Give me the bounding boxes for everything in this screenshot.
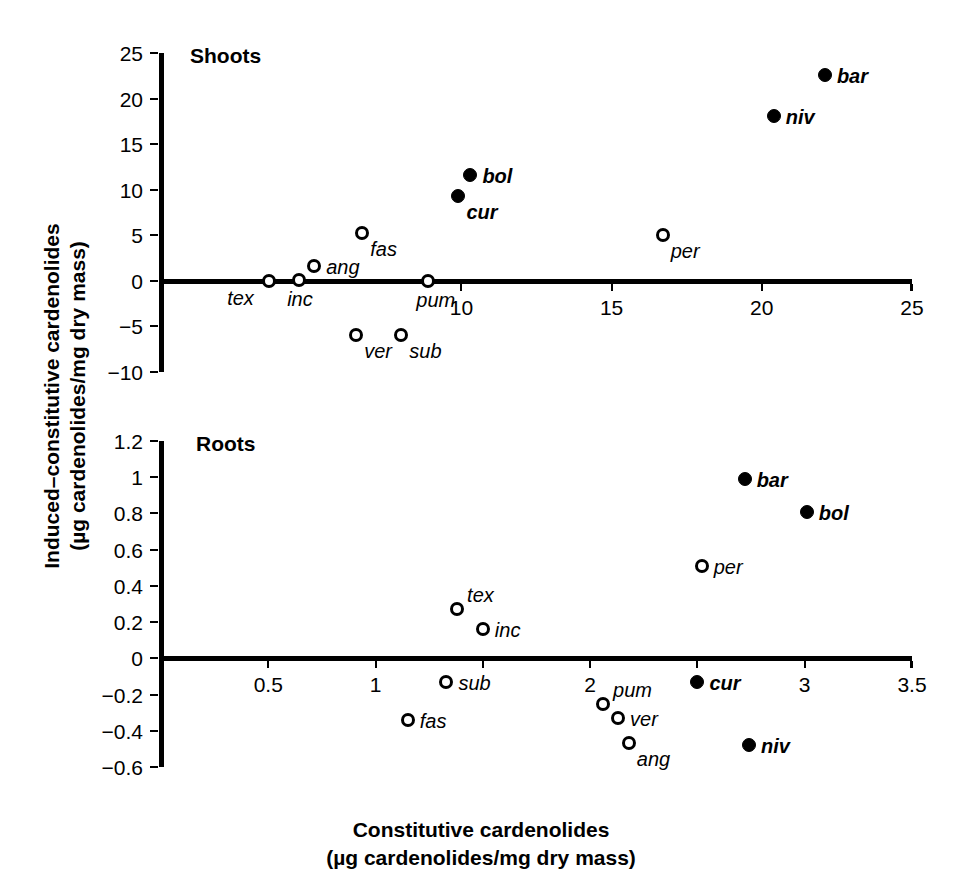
y-tick-label-roots-2: −0.2 bbox=[31, 684, 143, 705]
data-point-roots-ang[interactable] bbox=[622, 736, 636, 750]
y-tick-roots-1 bbox=[150, 730, 158, 732]
x-tick-label-roots-6: 3.5 bbox=[897, 674, 926, 695]
y-axis-line-roots bbox=[159, 441, 164, 767]
data-point-roots-fas[interactable] bbox=[401, 713, 415, 727]
x-axis-endcap-roots bbox=[910, 661, 912, 668]
data-point-label-roots-inc: inc bbox=[495, 620, 521, 640]
x-tick-roots-3 bbox=[589, 661, 591, 668]
data-point-label-roots-bar: bar bbox=[757, 470, 788, 490]
x-tick-roots-4 bbox=[696, 661, 698, 668]
data-point-label-roots-cur: cur bbox=[709, 673, 740, 693]
y-tick-label-roots-8: 1 bbox=[31, 467, 143, 488]
data-point-label-roots-bol: bol bbox=[819, 503, 849, 523]
x-tick-roots-1 bbox=[375, 661, 377, 668]
data-point-roots-sub[interactable] bbox=[439, 675, 453, 689]
y-tick-label-roots-7: 0.8 bbox=[31, 503, 143, 524]
y-tick-roots-4 bbox=[150, 621, 158, 623]
x-axis-title: Constitutive cardenolides (µg cardenolid… bbox=[0, 816, 962, 872]
data-point-label-roots-niv: niv bbox=[761, 736, 790, 756]
y-tick-roots-5 bbox=[150, 585, 158, 587]
y-tick-roots-2 bbox=[150, 694, 158, 696]
x-axis-title-line2: (µg cardenolides/mg dry mass) bbox=[0, 844, 962, 872]
y-tick-roots-8 bbox=[150, 476, 158, 478]
data-point-label-roots-per: per bbox=[714, 557, 743, 577]
y-tick-roots-7 bbox=[150, 512, 158, 514]
y-tick-label-roots-5: 0.4 bbox=[31, 575, 143, 596]
y-tick-label-roots-4: 0.2 bbox=[31, 612, 143, 633]
data-point-roots-cur[interactable] bbox=[690, 675, 704, 689]
x-axis-line-roots bbox=[161, 656, 912, 661]
y-tick-roots-0 bbox=[150, 766, 158, 768]
y-tick-label-roots-0: −0.6 bbox=[31, 757, 143, 778]
x-axis-title-line1: Constitutive cardenolides bbox=[0, 816, 962, 844]
data-point-label-roots-ver: ver bbox=[630, 709, 658, 729]
x-tick-label-roots-5: 3 bbox=[799, 674, 811, 695]
data-point-label-roots-tex: tex bbox=[467, 585, 494, 605]
data-point-roots-bar[interactable] bbox=[738, 472, 752, 486]
data-point-label-roots-fas: fas bbox=[420, 711, 447, 731]
x-tick-roots-0 bbox=[267, 661, 269, 668]
y-tick-roots-6 bbox=[150, 549, 158, 551]
data-point-roots-per[interactable] bbox=[695, 559, 709, 573]
figure-container: Induced–constitutive cardenolides (µg ca… bbox=[0, 0, 962, 896]
data-point-roots-niv[interactable] bbox=[742, 738, 756, 752]
data-point-roots-pum[interactable] bbox=[596, 697, 610, 711]
panel-title-roots: Roots bbox=[196, 432, 256, 456]
data-point-roots-ver[interactable] bbox=[611, 711, 625, 725]
data-point-roots-bol[interactable] bbox=[800, 505, 814, 519]
data-point-roots-inc[interactable] bbox=[476, 622, 490, 636]
data-point-label-roots-sub: sub bbox=[458, 673, 490, 693]
y-tick-roots-9 bbox=[150, 440, 158, 442]
x-tick-roots-5 bbox=[804, 661, 806, 668]
data-point-label-roots-pum: pum bbox=[613, 680, 652, 700]
panel-roots: Roots 0.51233.5−0.6−0.4−0.200.20.40.60.8… bbox=[0, 0, 962, 800]
y-tick-label-roots-9: 1.2 bbox=[31, 431, 143, 452]
data-point-roots-tex[interactable] bbox=[450, 602, 464, 616]
x-tick-roots-2 bbox=[482, 661, 484, 668]
y-tick-roots-3 bbox=[150, 657, 158, 659]
x-tick-label-roots-3: 2 bbox=[584, 674, 596, 695]
data-point-label-roots-ang: ang bbox=[637, 749, 670, 769]
x-tick-label-roots-0: 0.5 bbox=[254, 674, 283, 695]
y-tick-label-roots-6: 0.6 bbox=[31, 539, 143, 560]
y-tick-label-roots-1: −0.4 bbox=[31, 720, 143, 741]
y-tick-label-roots-3: 0 bbox=[31, 648, 143, 669]
x-tick-label-roots-1: 1 bbox=[370, 674, 382, 695]
